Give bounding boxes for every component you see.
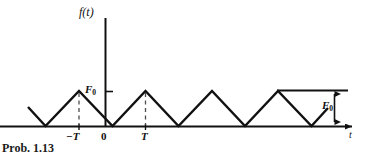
triangular-waveform [28,91,328,126]
right-amplitude-label: F0 [322,100,333,112]
peak-amplitude-subscript: 0 [92,88,96,97]
x-tick-label-negative-t: −T [66,131,79,142]
figure-caption: Prob. 1.13 [2,142,54,153]
right-amplitude-subscript: 0 [329,104,333,113]
figure-triangular-waveform: f(t) F0 F0 −T 0 T t Prob. 1.13 [0,0,370,153]
peak-amplitude-label: F0 [85,84,96,96]
x-tick-label-zero: 0 [101,131,107,142]
y-axis [106,18,114,127]
x-tick-label-positive-t: T [141,131,148,142]
y-axis-label: f(t) [79,6,94,18]
waveform-plot-svg [0,0,370,153]
peak-dashed-guides [79,93,146,125]
x-axis-label: t [349,130,352,140]
